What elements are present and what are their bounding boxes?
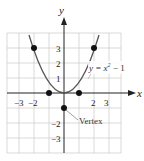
tick-x-3: 3 [104,98,109,108]
y-axis-arrow-icon [61,17,67,25]
tick-y--3: −3 [51,134,61,144]
x-axis-arrow-icon [128,90,136,96]
tick-x--3: −3 [14,98,24,108]
tick-x--2: −2 [28,98,38,108]
y-axis-label: y [58,4,64,16]
axes [7,22,131,153]
vertex-label: Vertex [79,116,103,126]
tick-y-1: 1 [56,74,61,84]
equation-label: y = x2 − 1 [88,62,125,73]
point-(-2,3) [31,45,37,51]
point-(0,-1) [61,105,67,111]
parabola-chart: x y −3 −2 2 3 3 2 1 −2 −3 y = x2 − 1 Ver… [0,0,144,161]
tick-y-2: 2 [56,59,61,69]
point-(2,3) [91,45,97,51]
tick-y-3: 3 [56,44,61,54]
vertex-leader [66,110,78,120]
tick-x-2: 2 [91,98,96,108]
point-(-1,0) [46,90,52,96]
x-axis-label: x [136,87,142,99]
point-(1,0) [76,90,82,96]
tick-y--2: −2 [51,119,61,129]
